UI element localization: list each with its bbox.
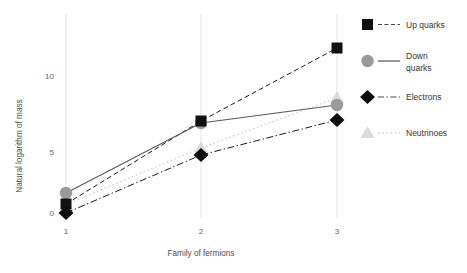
legend: Up quarks Down quarks Electrons Neutrino… bbox=[360, 19, 447, 138]
data-point-electrons-2 bbox=[194, 148, 209, 162]
legend-marker-square-icon bbox=[362, 19, 373, 30]
legend-label-down-quarks-line2: quarks bbox=[406, 63, 432, 73]
legend-item-neutrinoes[interactable]: Neutrinoes bbox=[361, 127, 447, 138]
x-axis-title: Family of fermions bbox=[168, 249, 235, 258]
data-point-up-quarks-2 bbox=[196, 116, 207, 127]
x-axis-ticks: 1 2 3 bbox=[64, 227, 340, 236]
chart-svg: 10 5 0 1 2 3 Natural logarithm of mass F… bbox=[0, 0, 467, 273]
data-point-down-quarks-3 bbox=[331, 99, 343, 111]
x-tick-label-3: 3 bbox=[335, 227, 340, 236]
series-line-electrons bbox=[66, 120, 337, 213]
legend-item-down-quarks[interactable]: Down quarks bbox=[361, 51, 431, 73]
x-tick-label-2: 2 bbox=[199, 227, 204, 236]
legend-label-up-quarks: Up quarks bbox=[406, 20, 445, 30]
data-point-down-quarks-1 bbox=[60, 187, 72, 199]
legend-item-electrons[interactable]: Electrons bbox=[360, 90, 441, 104]
legend-marker-circle-icon bbox=[361, 55, 373, 67]
y-axis-title: Natural logarithm of mass bbox=[15, 99, 24, 192]
y-axis-ticks: 10 5 0 bbox=[45, 72, 54, 218]
x-tick-label-1: 1 bbox=[64, 227, 69, 236]
data-point-up-quarks-3 bbox=[332, 43, 343, 54]
legend-label-down-quarks: Down bbox=[406, 51, 428, 61]
data-point-electrons-3 bbox=[330, 113, 345, 127]
series-markers-up-quarks bbox=[61, 43, 343, 210]
legend-label-electrons: Electrons bbox=[406, 92, 441, 102]
y-tick-label-5: 5 bbox=[50, 148, 55, 157]
legend-label-neutrinoes: Neutrinoes bbox=[406, 128, 447, 138]
legend-item-up-quarks[interactable]: Up quarks bbox=[362, 19, 445, 30]
y-tick-label-10: 10 bbox=[45, 72, 54, 81]
chart-container: 10 5 0 1 2 3 Natural logarithm of mass F… bbox=[0, 0, 467, 273]
legend-marker-diamond-icon bbox=[360, 90, 375, 104]
y-tick-label-0: 0 bbox=[50, 209, 55, 218]
legend-marker-triangle-icon bbox=[361, 127, 374, 138]
